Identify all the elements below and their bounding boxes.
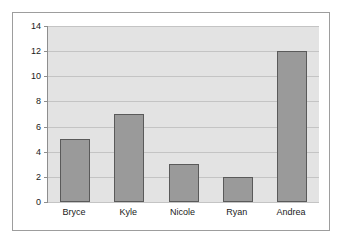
x-axis-label-andrea: Andrea: [264, 208, 318, 217]
x-axis-labels: BryceKyleNicoleRyanAndrea: [47, 208, 318, 217]
bar-ryan[interactable]: [223, 177, 253, 202]
y-axis-tick-label: 0: [36, 198, 41, 207]
bars-layer: [48, 26, 319, 202]
y-axis-tick-label: 14: [31, 22, 41, 31]
gridline: [48, 202, 319, 203]
x-axis-label-kyle: Kyle: [101, 208, 155, 217]
x-axis-label-nicole: Nicole: [155, 208, 209, 217]
bar-kyle[interactable]: [114, 114, 144, 202]
y-axis-tick: [44, 202, 48, 203]
bar-slot: [211, 26, 265, 202]
y-axis-tick-label: 6: [36, 122, 41, 131]
chart-frame: 14121086420 BryceKyleNicoleRyanAndrea: [12, 12, 330, 231]
x-axis-label-ryan: Ryan: [210, 208, 264, 217]
bar-slot: [48, 26, 102, 202]
bar-andrea[interactable]: [277, 51, 307, 202]
bar-slot: [102, 26, 156, 202]
x-axis-label-bryce: Bryce: [47, 208, 101, 217]
y-axis-tick-label: 10: [31, 72, 41, 81]
bar-bryce[interactable]: [60, 139, 90, 202]
plot-area: 14121086420: [47, 26, 319, 203]
bar-nicole[interactable]: [169, 164, 199, 202]
y-axis-tick-label: 2: [36, 172, 41, 181]
bar-slot: [265, 26, 319, 202]
bar-slot: [156, 26, 210, 202]
y-axis-tick-label: 8: [36, 97, 41, 106]
y-axis-tick-label: 12: [31, 47, 41, 56]
y-axis-tick-label: 4: [36, 147, 41, 156]
